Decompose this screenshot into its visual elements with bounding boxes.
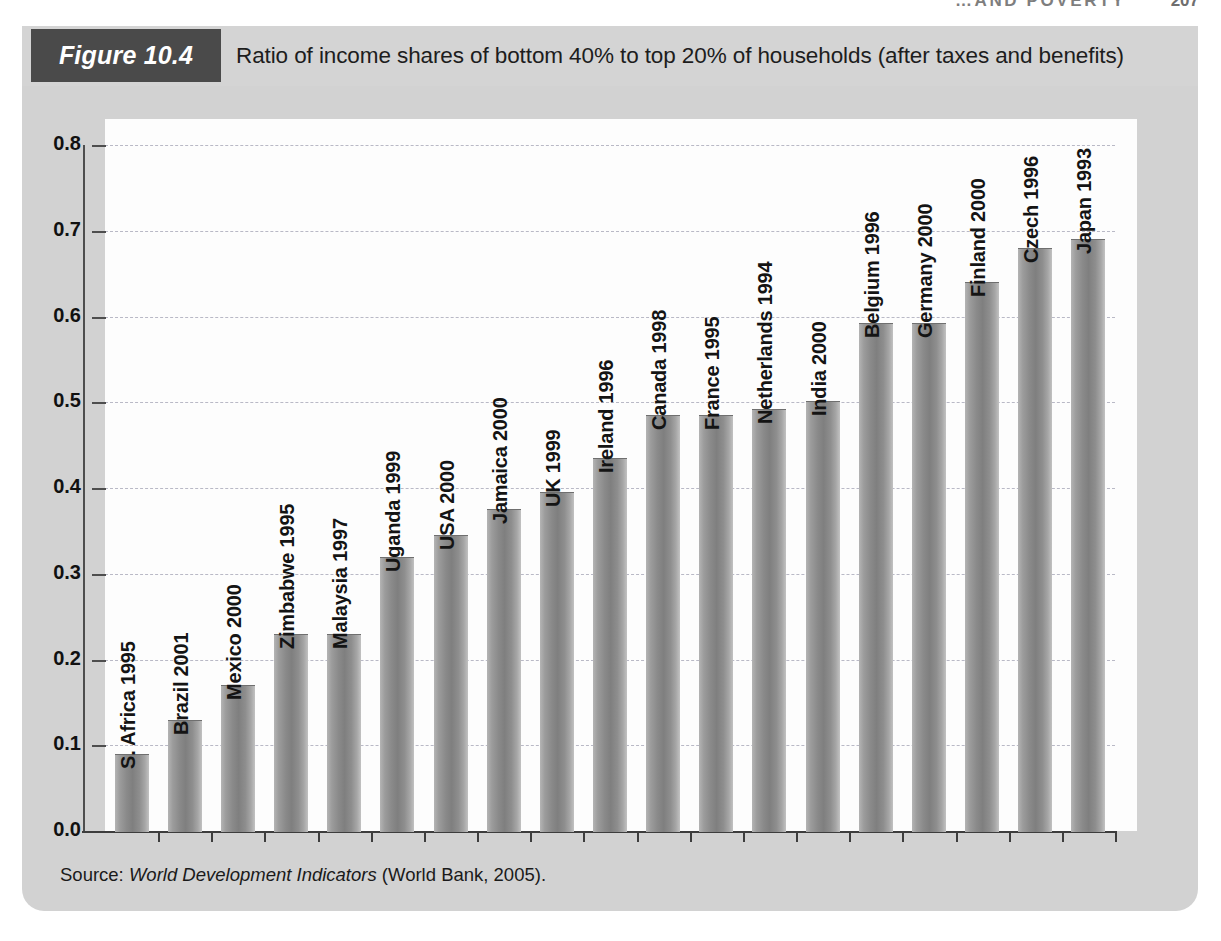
bar[interactable] xyxy=(806,401,840,832)
figure-number-badge: Figure 10.4 xyxy=(31,29,221,82)
running-head-text: …AND POVERTY xyxy=(955,0,1126,11)
bar[interactable] xyxy=(1071,239,1105,832)
figure-caption: Ratio of income shares of bottom 40% to … xyxy=(236,26,1124,86)
bar[interactable] xyxy=(487,509,521,832)
bar[interactable] xyxy=(115,754,149,832)
bar[interactable] xyxy=(1018,248,1052,832)
bar[interactable] xyxy=(221,685,255,832)
source-prefix: Source: xyxy=(60,864,129,885)
bar[interactable] xyxy=(912,323,946,832)
bar[interactable] xyxy=(859,323,893,832)
bar[interactable] xyxy=(540,492,574,832)
bar[interactable] xyxy=(965,282,999,832)
figure-header-strip: Figure 10.4 Ratio of income shares of bo… xyxy=(22,26,1198,86)
source-note: Source: World Development Indicators (Wo… xyxy=(60,864,546,886)
bar[interactable] xyxy=(168,720,202,832)
page-number: 207 xyxy=(1171,0,1199,11)
source-suffix: (World Bank, 2005). xyxy=(377,864,546,885)
bar[interactable] xyxy=(752,409,786,832)
source-title: World Development Indicators xyxy=(129,864,377,885)
bar[interactable] xyxy=(646,415,680,832)
bar[interactable] xyxy=(434,535,468,832)
bar[interactable] xyxy=(274,634,308,832)
figure-number-label: Figure 10.4 xyxy=(59,41,193,70)
bar[interactable] xyxy=(593,458,627,832)
bar[interactable] xyxy=(699,415,733,832)
bar[interactable] xyxy=(380,557,414,832)
bar[interactable] xyxy=(327,634,361,832)
page-running-header: …AND POVERTY 207 xyxy=(0,0,1221,16)
